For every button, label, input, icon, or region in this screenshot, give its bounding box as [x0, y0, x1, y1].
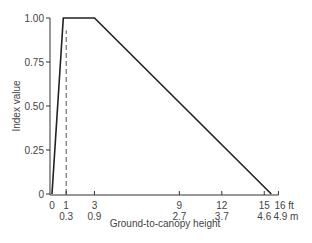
x-tick-label-ft: 9: [177, 200, 183, 211]
x-tick-label-m: 0.9: [87, 211, 101, 222]
x-tick-label-ft: 15: [259, 200, 271, 211]
data-series: [52, 18, 271, 194]
y-axis-ticks: 00.250.500.751.00: [25, 13, 50, 200]
y-tick-label: 0: [38, 189, 44, 200]
y-axis-title: Index value: [11, 80, 22, 132]
y-tick-label: 0.25: [25, 145, 45, 156]
y-tick-label: 1.00: [25, 13, 45, 24]
x-axis-title: Ground-to-canopy height: [110, 218, 221, 229]
x-tick-label-ft: 3: [92, 200, 98, 211]
y-tick-label: 0.75: [25, 57, 45, 68]
y-tick-label: 0.50: [25, 101, 45, 112]
x-tick-label-m: 4.9 m: [273, 211, 298, 222]
x-tick-label-ft: 0: [49, 200, 55, 211]
x-tick-label-ft: 12: [216, 200, 228, 211]
x-tick-label-m: 0.3: [59, 211, 73, 222]
index-curve-line: [52, 18, 271, 194]
axes: [50, 18, 278, 195]
habitat-index-chart: 00.250.500.751.00 010.330.992.7123.7154.…: [0, 0, 312, 243]
x-tick-label-ft: 16 ft: [274, 200, 294, 211]
x-tick-label-ft: 1: [63, 200, 69, 211]
chart-canvas: 00.250.500.751.00 010.330.992.7123.7154.…: [0, 0, 312, 243]
x-tick-label-m: 4.6: [257, 211, 271, 222]
